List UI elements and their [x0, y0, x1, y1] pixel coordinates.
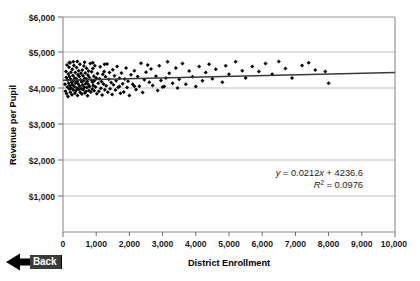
x-tick-label: 6,000 [251, 239, 273, 249]
regression-equation: y = 0.0212x + 4236.6 [275, 168, 363, 178]
y-axis-tick-labels: $6,000 $5,000 $4,000 $3,000 $2,000 $1,00… [29, 13, 56, 202]
y-tick-label: $1,000 [29, 192, 56, 202]
back-button[interactable]: Back [4, 252, 70, 272]
x-tick-label: 0 [61, 239, 66, 249]
x-tick-label: 7,000 [285, 239, 307, 249]
chart-figure: $6,000 $5,000 $4,000 $3,000 $2,000 $1,00… [0, 0, 420, 281]
y-axis-ticks [58, 17, 63, 196]
y-tick-label: $5,000 [29, 48, 56, 58]
x-tick-label: 10,000 [381, 239, 408, 249]
x-axis-tick-labels: 0 1,000 2,000 3,000 4,000 5,000 6,000 7,… [61, 239, 408, 249]
y-tick-label: $4,000 [29, 84, 56, 94]
x-tick-label: 5,000 [218, 239, 240, 249]
x-tick-label: 2,000 [119, 239, 141, 249]
back-button-label[interactable]: Back [30, 255, 62, 269]
y-tick-label: $3,000 [29, 120, 56, 130]
x-tick-label: 1,000 [85, 239, 107, 249]
plot-area-background [63, 17, 395, 232]
x-tick-label: 8,000 [318, 239, 340, 249]
x-axis-title: District Enrollment [188, 258, 270, 268]
scatter-chart: $6,000 $5,000 $4,000 $3,000 $2,000 $1,00… [0, 0, 420, 281]
y-tick-label: $2,000 [29, 156, 56, 166]
x-tick-label: 3,000 [152, 239, 174, 249]
x-tick-label: 9,000 [351, 239, 373, 249]
y-axis-title: Revenue per Pupil [8, 85, 18, 165]
x-axis-ticks [63, 232, 395, 237]
y-tick-label: $6,000 [29, 13, 56, 23]
x-tick-label: 4,000 [185, 239, 207, 249]
